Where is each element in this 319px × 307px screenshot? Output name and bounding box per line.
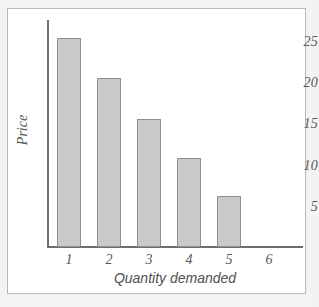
y-tick-label: 25: [274, 34, 318, 50]
x-tick-label: 3: [136, 252, 162, 268]
x-axis-title: Quantity demanded: [47, 270, 303, 286]
y-tick-label: 5: [274, 199, 318, 215]
plot-area: 5 10 15 20 25 1 2 3 4 5 6 Price Quantity…: [0, 0, 318, 307]
x-tick-label: 4: [176, 252, 202, 268]
bar-3: [137, 119, 161, 247]
y-axis-title: Price: [15, 100, 31, 160]
y-tick-label: 15: [274, 116, 318, 132]
y-tick-label: 20: [274, 75, 318, 91]
x-tick-label: 6: [256, 252, 282, 268]
figure: 5 10 15 20 25 1 2 3 4 5 6 Price Quantity…: [0, 0, 318, 307]
bar-2: [97, 78, 121, 247]
x-tick-label: 5: [216, 252, 242, 268]
bar-5: [217, 196, 241, 247]
bar-1: [57, 38, 81, 247]
x-tick-label: 1: [56, 252, 82, 268]
y-axis-line: [47, 20, 49, 248]
y-tick-label: 10: [274, 158, 318, 174]
x-axis-line: [47, 246, 303, 248]
x-tick-label: 2: [96, 252, 122, 268]
bar-4: [177, 158, 201, 247]
